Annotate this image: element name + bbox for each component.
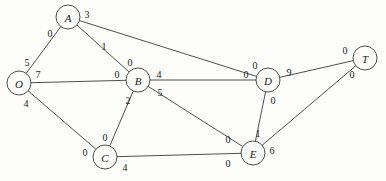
node-o[interactable]: O xyxy=(7,71,31,95)
edge-weight-e-t-near-t: 0 xyxy=(350,69,355,80)
edge-weight-o-a-near-o: 5 xyxy=(25,57,30,68)
node-label-c: C xyxy=(101,152,109,164)
edge-weight-b-e-near-b: 5 xyxy=(158,87,163,98)
node-label-a: A xyxy=(64,12,72,24)
diagram-canvas: OABCDET 507040103020405040019060 xyxy=(0,0,386,181)
node-label-t: T xyxy=(362,53,369,65)
network-graph: OABCDET 507040103020405040019060 xyxy=(0,0,386,181)
node-a[interactable]: A xyxy=(56,5,80,29)
edge-weights-layer: 507040103020405040019060 xyxy=(24,9,355,173)
edge-weight-b-e-near-e: 0 xyxy=(226,134,231,145)
edge-c-e xyxy=(117,153,241,156)
edge-o-a xyxy=(26,27,61,74)
edge-weight-a-b-near-b: 0 xyxy=(128,57,133,68)
edge-weight-d-e-near-e: 1 xyxy=(256,128,261,139)
edge-o-c xyxy=(28,91,96,149)
node-e[interactable]: E xyxy=(241,141,265,165)
node-c[interactable]: C xyxy=(93,145,117,169)
edge-weight-o-c-near-o: 4 xyxy=(24,98,29,109)
edge-weight-o-b-near-b: 0 xyxy=(115,69,120,80)
edge-weight-d-t-near-t: 0 xyxy=(343,45,348,56)
edge-weight-c-e-near-c: 4 xyxy=(123,162,128,173)
edge-weight-b-d-near-d: 0 xyxy=(244,69,249,80)
edge-weight-a-d-near-d: 0 xyxy=(253,60,258,71)
node-d[interactable]: D xyxy=(256,68,280,92)
node-label-o: O xyxy=(15,78,23,90)
edges-layer xyxy=(26,21,356,157)
node-label-b: B xyxy=(135,75,142,87)
node-t[interactable]: T xyxy=(353,46,377,70)
edge-weight-b-c-near-c: 0 xyxy=(103,132,108,143)
edge-o-b xyxy=(31,80,126,82)
edge-weight-d-t-near-d: 9 xyxy=(287,67,292,78)
edge-weight-b-d-near-b: 4 xyxy=(157,69,162,80)
edge-weight-e-t-near-e: 6 xyxy=(270,145,275,156)
node-label-d: D xyxy=(263,75,272,87)
edge-weight-o-b-near-o: 7 xyxy=(36,69,41,80)
nodes-layer: OABCDET xyxy=(7,5,377,169)
edge-weight-o-a-near-a: 0 xyxy=(48,28,53,39)
edge-weight-b-c-near-b: 2 xyxy=(126,95,131,106)
node-label-e: E xyxy=(249,148,257,160)
edge-weight-o-c-near-c: 0 xyxy=(83,147,88,158)
edge-weight-c-e-near-e: 0 xyxy=(226,158,231,169)
edge-weight-a-b-near-a: 1 xyxy=(102,41,107,52)
edge-weight-d-e-near-d: 0 xyxy=(271,95,276,106)
node-b[interactable]: B xyxy=(126,68,150,92)
edge-weight-a-d-near-a: 3 xyxy=(85,9,90,20)
